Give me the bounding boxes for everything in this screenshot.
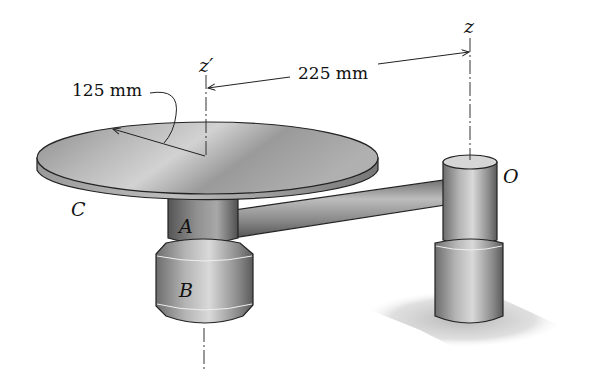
axis-offset-label: 225 mm bbox=[298, 63, 368, 83]
disk-radius-label: 125 mm bbox=[72, 80, 142, 100]
mechanism-drawing bbox=[0, 0, 591, 389]
pivot-o-lower bbox=[435, 239, 503, 323]
z-axis-label: z bbox=[464, 15, 474, 37]
pivot-o-label: O bbox=[503, 165, 519, 187]
offset-arrow-right bbox=[378, 52, 469, 64]
z-prime-axis-label: z′ bbox=[199, 54, 213, 76]
collar-a-label: A bbox=[179, 215, 193, 237]
disk-c-label: C bbox=[71, 198, 86, 220]
diagram-figure: 125 mm 225 mm z′ z C A B O bbox=[0, 0, 591, 389]
disk-c-top bbox=[37, 122, 378, 194]
pivot-o-upper bbox=[443, 162, 497, 245]
collar-b-label: B bbox=[179, 279, 193, 301]
offset-arrow-left bbox=[208, 77, 290, 88]
